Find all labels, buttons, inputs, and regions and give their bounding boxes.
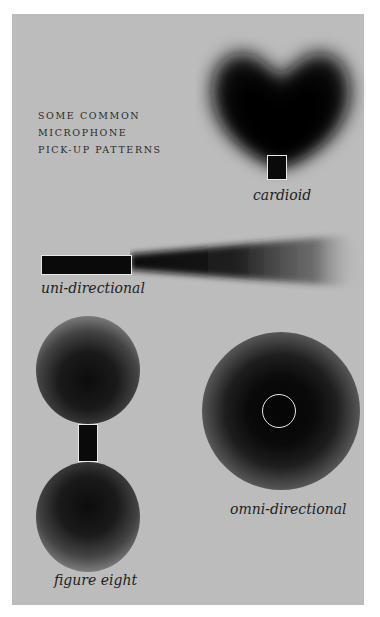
uni-directional-label: uni-directional bbox=[41, 280, 145, 296]
cardioid-microphone bbox=[267, 155, 287, 180]
title-line-3: PICK-UP PATTERNS bbox=[38, 141, 162, 158]
figure-eight-bottom-lobe bbox=[36, 462, 140, 572]
uni-directional-beam-icon bbox=[130, 230, 364, 294]
figure-eight-top-lobe bbox=[36, 316, 140, 424]
figure-eight-microphone bbox=[78, 424, 98, 462]
diagram-title: SOME COMMON MICROPHONE PICK-UP PATTERNS bbox=[38, 107, 162, 158]
figure-eight-label: figure eight bbox=[54, 572, 137, 588]
title-line-1: SOME COMMON bbox=[38, 107, 162, 124]
cardioid-label: cardioid bbox=[253, 187, 311, 203]
diagram-panel: SOME COMMON MICROPHONE PICK-UP PATTERNS … bbox=[12, 14, 364, 605]
uni-directional-microphone bbox=[41, 255, 132, 275]
title-line-2: MICROPHONE bbox=[38, 124, 162, 141]
omni-directional-microphone bbox=[262, 394, 296, 428]
omni-directional-label: omni-directional bbox=[230, 501, 347, 517]
